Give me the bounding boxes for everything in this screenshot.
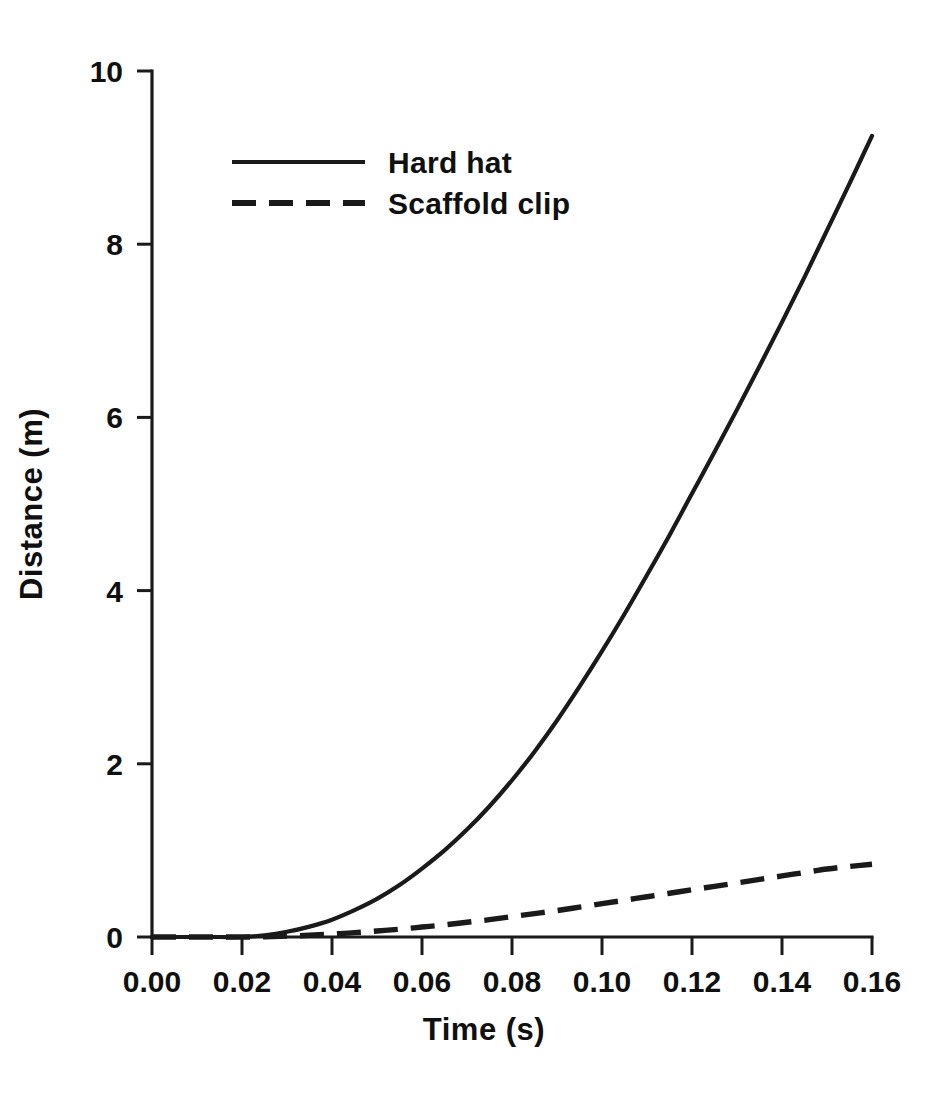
- x-axis-title: Time (s): [423, 1012, 545, 1047]
- series-line-scaffold-clip: [152, 864, 872, 937]
- x-axis-tick-label: 0.08: [483, 965, 541, 998]
- x-axis-tick-label: 0.04: [303, 965, 362, 998]
- x-axis-tick-label: 0.16: [843, 965, 901, 998]
- y-axis-tick-label: 0: [106, 921, 123, 954]
- series-line-hard-hat: [152, 136, 872, 937]
- chart-container: 0246810 0.000.020.040.060.080.100.120.14…: [0, 0, 940, 1095]
- x-axis-tick-label: 0.06: [393, 965, 451, 998]
- chart-canvas: 0246810 0.000.020.040.060.080.100.120.14…: [0, 0, 940, 1095]
- x-axis-tick-label: 0.02: [213, 965, 271, 998]
- y-axis-tick-label: 8: [106, 228, 123, 261]
- chart-legend: Hard hat Scaffold clip: [232, 146, 570, 220]
- y-axis-tick-label: 2: [106, 748, 123, 781]
- y-axis-title: Distance (m): [14, 408, 49, 600]
- legend-label-hard-hat: Hard hat: [388, 146, 512, 179]
- legend-label-scaffold-clip: Scaffold clip: [388, 187, 570, 220]
- y-axis-tick-label: 10: [90, 55, 123, 88]
- series-layer: [152, 136, 872, 937]
- y-axis-ticks: 0246810: [90, 55, 152, 954]
- x-axis-ticks: 0.000.020.040.060.080.100.120.140.16: [123, 937, 901, 998]
- y-axis-tick-label: 4: [106, 575, 123, 608]
- x-axis-tick-label: 0.00: [123, 965, 181, 998]
- y-axis-tick-label: 6: [106, 401, 123, 434]
- x-axis-tick-label: 0.12: [663, 965, 721, 998]
- x-axis-tick-label: 0.10: [573, 965, 631, 998]
- x-axis-tick-label: 0.14: [753, 965, 812, 998]
